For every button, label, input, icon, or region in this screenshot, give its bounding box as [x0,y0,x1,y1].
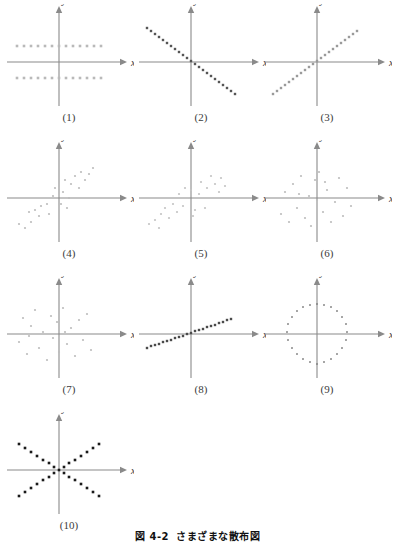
data-point [24,227,26,229]
data-point [52,337,54,339]
data-point [288,81,290,83]
data-point [166,42,168,44]
data-point [168,217,170,219]
data-point [174,337,176,339]
data-point [63,466,66,469]
data-point [198,66,200,68]
data-point [276,90,278,92]
data-point [98,495,101,498]
data-point [23,45,26,48]
data-point [170,45,172,47]
data-point [178,51,180,53]
data-point [345,339,347,341]
scatter-plot-area: xy [136,4,266,112]
data-point [198,193,200,195]
data-point [182,205,184,207]
data-point [79,77,82,80]
data-point [48,462,51,465]
data-point [37,77,40,80]
data-point [287,323,289,325]
data-point [324,54,326,56]
data-point [52,195,54,197]
y-axis-arrowhead-icon [314,6,320,13]
data-point [160,213,162,215]
data-point [210,325,212,327]
data-point [292,183,294,185]
data-point [66,207,68,209]
data-point [174,48,176,50]
data-point [298,193,300,195]
data-point [86,313,88,315]
data-point [309,304,311,306]
data-point [72,77,75,80]
data-point [296,75,298,77]
data-point [206,187,208,189]
data-point [58,45,61,48]
data-point [30,325,32,327]
scatterplot-figure-grid: xy(1)xy(2)xy(3)xy(4)xy(5)xy(6)xy(7)xy(8)… [0,0,395,546]
data-point [178,336,180,338]
data-point [58,77,61,80]
y-axis-arrowhead-icon [56,278,62,285]
data-point [78,319,80,321]
data-point [192,215,194,217]
panel-label: (6) [262,246,392,260]
data-point [202,328,204,330]
data-point [58,351,60,353]
data-point [80,455,83,458]
data-point [200,181,202,183]
y-axis-label: y [61,4,67,6]
x-axis-label: x [388,193,392,204]
data-point [287,339,289,341]
scatter-panel: xy(8) [136,276,266,396]
scatter-panel: xy(3) [262,4,392,124]
y-axis-arrowhead-icon [188,278,194,285]
x-axis-arrowhead-icon [120,59,127,65]
data-point [323,304,325,306]
y-axis-arrowhead-icon [188,6,194,13]
panel-label: (1) [4,110,134,124]
data-point [284,191,286,193]
data-point [194,63,196,65]
data-point [36,483,39,486]
data-point [58,469,61,472]
data-point [318,171,320,173]
data-point [162,39,164,41]
data-point [234,93,236,95]
data-point [60,203,62,205]
scatter-plot-area: xy [262,140,392,248]
data-point [224,185,226,187]
data-point [342,215,344,217]
data-point [86,77,89,80]
data-point [26,353,28,355]
data-point [190,60,192,62]
data-point [46,203,48,205]
data-point [54,187,56,189]
data-point [68,197,70,199]
data-point [328,51,330,53]
data-point [341,347,343,349]
data-point [154,33,156,35]
data-point [190,332,192,334]
scatter-panel: xy(7) [4,276,134,396]
y-axis-arrowhead-icon [314,278,320,285]
data-point [42,459,45,462]
data-point [340,42,342,44]
scatter-plot-area: xy [4,276,134,384]
y-axis-arrowhead-icon [188,142,194,149]
data-point [330,306,332,308]
data-point [316,60,318,62]
data-point [66,343,68,345]
data-point [56,321,58,323]
y-axis-arrowhead-icon [56,414,62,421]
data-point [300,175,302,177]
data-point [82,339,84,341]
data-point [345,323,347,325]
data-point [348,36,350,38]
data-point [272,93,274,95]
data-point [284,84,286,86]
scatter-plot-area: xy [4,140,134,248]
figure-caption: 図 4-2さまざまな散布図 [0,528,395,543]
data-point [300,72,302,74]
data-point [53,466,56,469]
